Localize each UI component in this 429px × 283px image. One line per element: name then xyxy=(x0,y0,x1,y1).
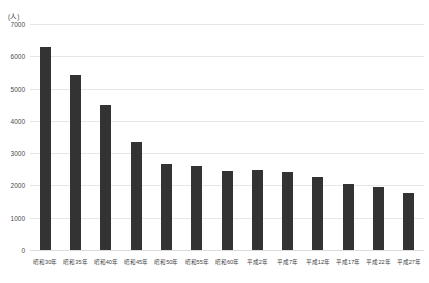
x-axis-tick-label: 平成27年 xyxy=(397,258,421,266)
bar xyxy=(131,142,142,250)
bar xyxy=(312,177,323,250)
y-axis-tick-label: 2000 xyxy=(11,182,25,189)
x-axis-tick-label: 平成12年 xyxy=(306,258,330,266)
x-axis-tick-label: 昭和60年 xyxy=(215,258,239,266)
bar xyxy=(191,166,202,250)
x-axis-tick-label: 平成17年 xyxy=(336,258,360,266)
x-axis-tick-label: 平成2年 xyxy=(247,258,268,266)
x-axis-tick-label: 平成7年 xyxy=(277,258,298,266)
bar-series xyxy=(30,24,424,250)
x-axis-tick-label: 昭和50年 xyxy=(154,258,178,266)
x-axis-tick-label: 平成22年 xyxy=(366,258,390,266)
y-axis-tick-label: 6000 xyxy=(11,53,25,60)
y-axis-tick-label: 7000 xyxy=(11,21,25,28)
x-axis-tick-labels: 昭和30年昭和35年昭和40年昭和45年昭和50年昭和55年昭和60年平成2年平… xyxy=(30,252,424,274)
bar xyxy=(100,105,111,250)
gridline xyxy=(30,250,424,251)
bar xyxy=(373,187,384,250)
bar xyxy=(40,47,51,250)
x-axis-tick-label: 昭和35年 xyxy=(63,258,87,266)
bar xyxy=(222,171,233,250)
y-axis-tick-label: 3000 xyxy=(11,150,25,157)
y-axis-tick-labels: 01000200030004000500060007000 xyxy=(0,0,28,283)
bar xyxy=(70,75,81,250)
x-axis-tick-label: 昭和55年 xyxy=(185,258,209,266)
bar xyxy=(252,170,263,250)
y-axis-tick-label: 0 xyxy=(21,247,25,254)
bar xyxy=(161,164,172,250)
bar-chart: (人) 01000200030004000500060007000 昭和30年昭… xyxy=(0,0,429,283)
x-axis-tick-label: 昭和40年 xyxy=(94,258,118,266)
bar xyxy=(282,172,293,250)
y-axis-tick-label: 1000 xyxy=(11,214,25,221)
bar xyxy=(343,184,354,251)
y-axis-tick-label: 4000 xyxy=(11,117,25,124)
x-axis-tick-label: 昭和45年 xyxy=(124,258,148,266)
x-axis-tick-label: 昭和30年 xyxy=(33,258,57,266)
y-axis-tick-label: 5000 xyxy=(11,85,25,92)
bar xyxy=(403,193,414,250)
